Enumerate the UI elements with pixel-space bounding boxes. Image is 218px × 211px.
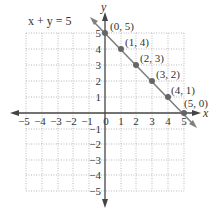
svg-text:(3, 2): (3, 2) (156, 68, 180, 81)
svg-text:−3: −3 (50, 115, 62, 127)
svg-text:−4: −4 (34, 115, 46, 127)
equation-label: x + y = 5 (28, 14, 72, 28)
axes (10, 12, 201, 208)
y-axis-label: y (100, 0, 107, 14)
point-2-3 (133, 62, 139, 68)
svg-text:−3: −3 (89, 154, 101, 166)
y-tick-labels: 5 4 3 2 1 −1 −2 −3 −4 −5 (89, 27, 101, 197)
svg-text:(2, 3): (2, 3) (140, 52, 164, 65)
svg-text:(1, 4): (1, 4) (125, 36, 149, 49)
svg-text:(4, 1): (4, 1) (171, 84, 195, 97)
svg-text:4: 4 (165, 115, 171, 127)
svg-text:(5, 0): (5, 0) (184, 97, 208, 110)
svg-text:−1: −1 (89, 123, 101, 135)
svg-text:3: 3 (96, 59, 102, 71)
point-0-5 (102, 30, 108, 36)
svg-text:0: 0 (103, 115, 109, 127)
chart-canvas: y x −5 −4 −3 −2 −1 0 1 2 3 4 5 5 4 3 2 1… (0, 0, 218, 211)
svg-text:−4: −4 (89, 169, 101, 181)
svg-text:1: 1 (96, 91, 102, 103)
svg-text:−2: −2 (89, 138, 101, 150)
svg-text:3: 3 (149, 115, 155, 127)
point-5-0 (181, 110, 187, 116)
svg-text:−2: −2 (65, 115, 77, 127)
point-1-4 (118, 46, 124, 52)
y-axis-down-arrow-icon (102, 199, 108, 208)
svg-text:(0, 5): (0, 5) (110, 20, 134, 33)
x-axis-right-arrow-icon (192, 110, 201, 116)
svg-text:−5: −5 (18, 115, 30, 127)
svg-text:−5: −5 (89, 185, 101, 197)
point-3-2 (149, 78, 155, 84)
svg-text:2: 2 (133, 115, 139, 127)
x-tick-labels: −5 −4 −3 −2 −1 0 1 2 3 4 5 (18, 115, 187, 127)
svg-text:4: 4 (96, 43, 102, 55)
svg-text:2: 2 (96, 75, 102, 87)
svg-text:1: 1 (118, 115, 124, 127)
